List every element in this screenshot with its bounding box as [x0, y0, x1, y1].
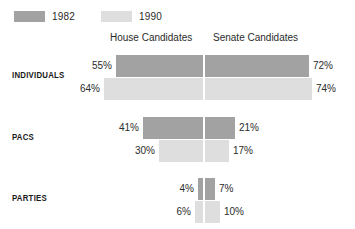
- bar-line-parties-1990: 6% 10%: [0, 201, 355, 223]
- bar-line-individuals-1990: 64% 74%: [0, 78, 355, 100]
- bar-value-pacs-house-1982: 41%: [111, 117, 139, 139]
- column-headers: House Candidates Senate Candidates: [0, 33, 355, 47]
- bar-value-pacs-house-1990: 30%: [127, 140, 155, 162]
- bar-value-parties-house-1990: 6%: [163, 201, 191, 223]
- bar-parties-senate-1982: [205, 178, 215, 200]
- legend-item-1982: 1982: [14, 11, 75, 22]
- bar-line-parties-1982: 4% 7%: [0, 178, 355, 200]
- bar-pacs-house-1990: [159, 140, 204, 162]
- plot-area: INDIVIDUALS 55% 72% 64% 74% PACS 41% 2: [0, 50, 355, 229]
- bar-value-parties-senate-1982: 7%: [219, 178, 233, 200]
- bar-value-individuals-house-1982: 55%: [84, 55, 112, 77]
- bar-value-pacs-senate-1990: 17%: [233, 140, 253, 162]
- chart-legend: 1982 1990: [14, 11, 162, 22]
- column-header-house: House Candidates: [110, 33, 192, 43]
- bar-value-individuals-house-1990: 64%: [72, 78, 100, 100]
- bar-individuals-senate-1982: [205, 55, 309, 77]
- bar-value-individuals-senate-1982: 72%: [313, 55, 333, 77]
- bar-individuals-house-1990: [104, 78, 204, 100]
- legend-swatch-1982-icon: [14, 11, 45, 22]
- legend-swatch-1990-icon: [101, 11, 132, 22]
- bar-value-parties-house-1982: 4%: [166, 178, 194, 200]
- group-row-individuals: INDIVIDUALS 55% 72% 64% 74%: [0, 53, 355, 103]
- bar-line-pacs-1990: 30% 17%: [0, 140, 355, 162]
- bar-pacs-senate-1982: [205, 117, 235, 139]
- bar-individuals-senate-1990: [205, 78, 312, 100]
- bar-line-individuals-1982: 55% 72%: [0, 55, 355, 77]
- bar-value-individuals-senate-1990: 74%: [316, 78, 336, 100]
- bar-individuals-house-1982: [116, 55, 204, 77]
- bar-pacs-house-1982: [143, 117, 204, 139]
- bar-value-parties-senate-1990: 10%: [224, 201, 244, 223]
- group-row-parties: PARTIES 4% 7% 6% 10%: [0, 176, 355, 226]
- bar-line-pacs-1982: 41% 21%: [0, 117, 355, 139]
- column-header-senate: Senate Candidates: [213, 33, 298, 43]
- bar-value-pacs-senate-1982: 21%: [239, 117, 259, 139]
- legend-label-1990: 1990: [139, 12, 162, 22]
- chart-container: 1982 1990 House Candidates Senate Candid…: [0, 0, 355, 229]
- bar-pacs-senate-1990: [205, 140, 229, 162]
- legend-item-1990: 1990: [101, 11, 162, 22]
- bar-parties-senate-1990: [205, 201, 220, 223]
- group-row-pacs: PACS 41% 21% 30% 17%: [0, 115, 355, 165]
- center-axis-divider: [203, 50, 205, 229]
- legend-label-1982: 1982: [52, 12, 75, 22]
